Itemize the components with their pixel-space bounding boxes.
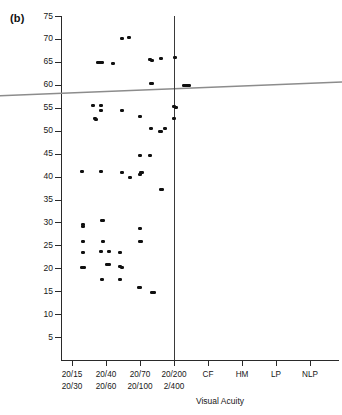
y-tick-label-text: 25 <box>1 241 53 250</box>
x-tick-mark <box>242 360 243 366</box>
scatter-point <box>140 171 144 174</box>
scatter-point <box>187 84 191 87</box>
y-tick-label: 25 <box>0 241 53 250</box>
y-tick-label-text: 30 <box>1 218 53 227</box>
x-tick-label-lower: 2/400 <box>142 381 206 393</box>
scatter-point <box>120 37 124 40</box>
scatter-point <box>81 251 85 254</box>
y-tick-label: 10 <box>0 310 53 319</box>
x-tick-label: NLP <box>290 369 330 381</box>
scatter-point <box>159 130 163 133</box>
x-axis-line <box>61 360 339 361</box>
scatter-point <box>138 286 142 289</box>
scatter-point <box>163 127 167 130</box>
scatter-point <box>172 117 176 120</box>
scatter-point <box>148 154 152 157</box>
scatter-point <box>91 104 95 107</box>
x-tick-mark <box>106 360 107 366</box>
scatter-point <box>138 227 142 230</box>
scatter-point <box>149 127 153 130</box>
scatter-point <box>80 170 84 173</box>
scatter-point <box>82 266 86 269</box>
y-tick-label: 30 <box>0 218 53 227</box>
x-tick-mark <box>140 360 141 366</box>
y-tick-label: 70 <box>0 34 53 43</box>
scatter-point <box>120 266 124 269</box>
scatter-point <box>174 106 178 109</box>
x-axis-title: Visual Acuity <box>160 396 280 406</box>
scatter-point <box>128 176 132 179</box>
scatter-point <box>107 263 111 266</box>
scatter-point <box>81 225 85 228</box>
scatter-point <box>159 57 163 60</box>
y-tick-label-text: 50 <box>1 126 53 135</box>
y-tick-label: 15 <box>0 287 53 296</box>
scatter-plot-area <box>61 16 337 360</box>
y-tick-label: 50 <box>0 126 53 135</box>
scatter-point <box>94 118 98 121</box>
y-tick-label-text: 45 <box>1 149 53 158</box>
y-tick-label-text: 35 <box>1 195 53 204</box>
scatter-point <box>138 154 142 157</box>
y-tick-label: 40 <box>0 172 53 181</box>
scatter-point <box>118 251 122 254</box>
y-tick-label-text: 65 <box>1 57 53 66</box>
y-tick-label: 5 <box>0 333 53 342</box>
scatter-point <box>173 56 177 59</box>
scatter-point <box>100 278 104 281</box>
scatter-point <box>160 188 164 191</box>
y-tick-label: 45 <box>0 149 53 158</box>
y-tick-label: 65 <box>0 57 53 66</box>
y-tick-label: 35 <box>0 195 53 204</box>
scatter-point <box>99 104 103 107</box>
y-tick-label-text: 5 <box>1 333 53 342</box>
figure-panel: (b) 51015202530354045505560657075 20/152… <box>0 0 342 415</box>
scatter-point <box>100 61 104 64</box>
y-tick-label-text: 10 <box>1 310 53 319</box>
scatter-point <box>127 36 131 39</box>
x-tick-mark <box>310 360 311 366</box>
scatter-point <box>99 250 103 253</box>
y-tick-label-text: 60 <box>1 80 53 89</box>
y-tick-label-text: 75 <box>1 12 53 21</box>
scatter-point <box>150 82 154 85</box>
scatter-point <box>101 240 105 243</box>
y-tick-label-text: 15 <box>1 287 53 296</box>
scatter-point <box>139 240 143 243</box>
scatter-point <box>152 291 156 294</box>
scatter-point <box>120 109 124 112</box>
scatter-point <box>81 240 85 243</box>
scatter-point <box>150 59 154 62</box>
y-tick-label-text: 40 <box>1 172 53 181</box>
scatter-point <box>101 219 105 222</box>
y-tick-label-text: 20 <box>1 264 53 273</box>
x-tick-label-upper: 20/200 <box>161 370 186 379</box>
scatter-point <box>138 115 142 118</box>
y-tick-label: 75 <box>0 12 53 21</box>
scatter-point <box>99 170 103 173</box>
scatter-point <box>99 109 103 112</box>
scatter-point <box>118 278 122 281</box>
x-tick-mark <box>208 360 209 366</box>
y-tick-label: 20 <box>0 264 53 273</box>
y-tick-label: 60 <box>0 80 53 89</box>
x-tick-mark <box>276 360 277 366</box>
scatter-point <box>120 171 124 174</box>
y-tick-label: 55 <box>0 103 53 112</box>
scatter-point <box>111 62 115 65</box>
y-tick-label-text: 70 <box>1 34 53 43</box>
y-tick-label-text: 55 <box>1 103 53 112</box>
x-tick-mark <box>72 360 73 366</box>
scatter-point <box>107 250 111 253</box>
x-tick-mark <box>174 360 175 366</box>
